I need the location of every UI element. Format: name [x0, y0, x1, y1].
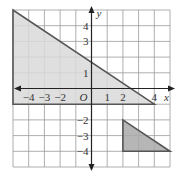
y-axis-arrow-down-icon: [89, 164, 95, 171]
x-tick-label: −4: [23, 91, 35, 103]
y-tick-label: −2: [77, 114, 89, 126]
y-tick-label: 4: [83, 20, 89, 32]
y-tick-label: −4: [77, 145, 89, 157]
x-tick-label: 1: [104, 91, 110, 103]
y-tick-label: 1: [83, 67, 89, 79]
x-tick-label: 2: [120, 91, 126, 103]
y-tick-label: 3: [83, 35, 89, 47]
y-axis-arrow-up-icon: [89, 6, 95, 13]
y-tick-label: −3: [77, 130, 89, 142]
x-tick-label: 4: [152, 91, 158, 103]
x-axis-label: x: [163, 91, 169, 103]
x-tick-label: −3: [39, 91, 51, 103]
origin-label: O: [80, 91, 88, 103]
y-axis-label: y: [96, 7, 102, 19]
x-tick-label: −2: [54, 91, 66, 103]
x-axis-arrow-right-icon: [168, 86, 175, 92]
coordinate-grid-diagram: −4−3−2124431−2−3−4Oxy: [0, 0, 178, 184]
